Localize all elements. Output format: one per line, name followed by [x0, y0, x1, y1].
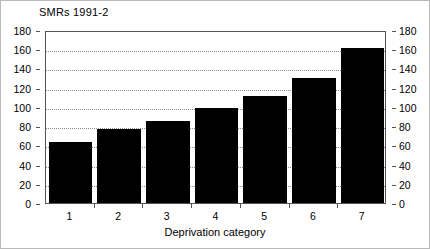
y-axis-right-tick-mark — [392, 127, 396, 128]
y-axis-right-tick-mark — [392, 50, 396, 51]
y-axis-right-tick-label: 140 — [399, 64, 417, 75]
y-axis-left-tick-label: 80 — [19, 122, 31, 133]
y-axis-right-tick-label: 100 — [399, 103, 417, 114]
x-axis-tick-label: 6 — [310, 210, 316, 222]
y-axis-right-tick-mark — [392, 204, 396, 205]
y-axis-left-tick-mark — [36, 31, 40, 32]
bar — [146, 121, 190, 203]
bar — [292, 78, 336, 203]
y-axis-left-tick-label: 120 — [13, 84, 31, 95]
y-axis-right-tick-label: 60 — [399, 141, 411, 152]
bar — [195, 108, 239, 203]
y-axis-left-tick-mark — [36, 108, 40, 109]
y-axis-left-tick-label: 60 — [19, 141, 31, 152]
x-axis-tick-mark — [94, 204, 95, 208]
y-axis-left-tick-label: 20 — [19, 180, 31, 191]
y-axis-right-tick-mark — [392, 31, 396, 32]
y-axis-right-tick-label: 40 — [399, 161, 411, 172]
bar — [341, 48, 385, 203]
x-axis: 1234567 — [45, 204, 386, 224]
plot-area — [45, 31, 386, 204]
y-axis-left: 020406080100120140160180 — [1, 31, 40, 204]
y-axis-left-tick-label: 0 — [25, 199, 31, 210]
x-axis-tick-mark — [240, 204, 241, 208]
bar — [243, 96, 287, 203]
y-axis-left-tick-label: 160 — [13, 45, 31, 56]
y-axis-right-tick-mark — [392, 166, 396, 167]
y-axis-right-tick-label: 180 — [399, 26, 417, 37]
y-axis-right-tick-label: 0 — [399, 199, 405, 210]
y-axis-right-tick-mark — [392, 69, 396, 70]
y-axis-left-tick-mark — [36, 166, 40, 167]
chart-figure: SMRs 1991-2 020406080100120140160180 020… — [0, 0, 430, 249]
x-axis-tick-mark — [289, 204, 290, 208]
y-axis-left-tick-label: 40 — [19, 161, 31, 172]
x-axis-tick-mark — [191, 204, 192, 208]
x-axis-tick-mark — [142, 204, 143, 208]
x-axis-tick-label: 4 — [213, 210, 219, 222]
chart-title: SMRs 1991-2 — [39, 6, 108, 18]
y-axis-right-tick-label: 160 — [399, 45, 417, 56]
x-axis-tick-label: 1 — [66, 210, 72, 222]
y-axis-right-tick-mark — [392, 108, 396, 109]
y-axis-left-tick-label: 140 — [13, 64, 31, 75]
y-axis-left-tick-mark — [36, 204, 40, 205]
y-axis-left-tick-mark — [36, 146, 40, 147]
y-axis-left-tick-label: 180 — [13, 26, 31, 37]
y-axis-right-tick-mark — [392, 185, 396, 186]
y-axis-left-tick-mark — [36, 50, 40, 51]
bar — [49, 142, 93, 204]
x-axis-tick-label: 5 — [261, 210, 267, 222]
y-axis-right-tick-label: 20 — [399, 180, 411, 191]
y-axis-left-tick-mark — [36, 185, 40, 186]
x-axis-tick-label: 7 — [359, 210, 365, 222]
x-axis-tick-mark — [337, 204, 338, 208]
y-axis-right-tick-mark — [392, 146, 396, 147]
y-axis-right-tick-mark — [392, 89, 396, 90]
x-axis-tick-label: 2 — [115, 210, 121, 222]
y-axis-left-tick-mark — [36, 89, 40, 90]
x-axis-tick-label: 3 — [164, 210, 170, 222]
y-axis-right: 020406080100120140160180 — [392, 31, 430, 204]
y-axis-left-tick-label: 100 — [13, 103, 31, 114]
x-axis-label: Deprivation category — [1, 226, 429, 238]
y-axis-left-tick-mark — [36, 127, 40, 128]
bar — [97, 129, 141, 203]
bar-series — [46, 32, 385, 203]
y-axis-right-tick-label: 120 — [399, 84, 417, 95]
y-axis-left-tick-mark — [36, 69, 40, 70]
y-axis-right-tick-label: 80 — [399, 122, 411, 133]
